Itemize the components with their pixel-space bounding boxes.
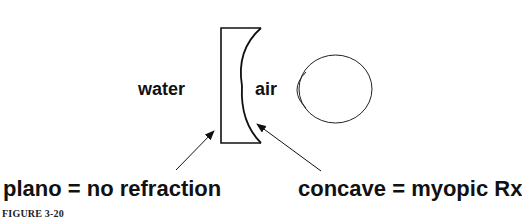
air-label: air bbox=[255, 80, 277, 98]
figure-caption: FIGURE 3-20 bbox=[2, 208, 64, 219]
concave-annotation: concave = myopic Rx bbox=[298, 178, 522, 200]
water-label: water bbox=[138, 80, 185, 98]
plano-annotation: plano = no refraction bbox=[3, 178, 221, 200]
concave-arrow bbox=[257, 124, 321, 171]
plano-arrow bbox=[176, 131, 214, 170]
eye-icon bbox=[297, 55, 372, 123]
